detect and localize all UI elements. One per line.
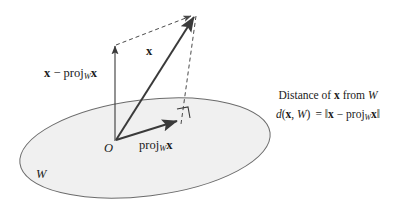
caption-x-symbol: x: [334, 89, 340, 101]
caption-norm-close: ‖: [377, 108, 380, 120]
difference-proj-text: proj: [64, 66, 84, 80]
caption-line-2: d(x, W)= ‖x − projWx‖: [252, 105, 404, 125]
difference-vector-label: x − projWx: [44, 67, 97, 81]
caption-comma: ,: [291, 108, 294, 120]
caption-formula-x-2: x: [328, 108, 334, 120]
distance-caption: Distance of x from W d(x, W)= ‖x − projW…: [252, 86, 404, 124]
caption-formula-minus: −: [337, 108, 344, 120]
origin-label: O: [104, 142, 113, 155]
caption-close-paren: ): [307, 108, 311, 120]
plane-label: W: [36, 168, 46, 181]
x-vector-label: x: [146, 45, 152, 58]
caption-formula-subspace: W: [297, 108, 307, 120]
difference-proj-subscript: W: [84, 71, 91, 81]
caption-formula-proj: proj: [346, 108, 365, 120]
distance-to-subspace-diagram: x − projWx x O projWx W Distance of x fr…: [0, 0, 409, 209]
caption-prefix: Distance of: [278, 89, 331, 101]
caption-equals: =: [315, 108, 322, 120]
difference-x-symbol-2: x: [91, 66, 97, 80]
caption-line-1: Distance of x from W: [252, 86, 404, 105]
projection-x-symbol: x: [166, 138, 172, 152]
projection-proj-text: proj: [139, 138, 159, 152]
caption-subspace: W: [368, 89, 378, 101]
projection-vector-label: projWx: [139, 139, 172, 153]
caption-middle: from: [343, 89, 365, 101]
